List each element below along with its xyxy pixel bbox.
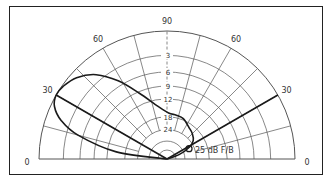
ring-label: 6 <box>166 69 171 77</box>
angle-label: 30 <box>42 86 52 95</box>
angle-label: 90 <box>162 17 172 26</box>
angle-label: 0 <box>304 158 309 167</box>
radial-grid-line <box>182 48 231 133</box>
radial-grid-line <box>134 35 160 130</box>
angle-label: 0 <box>24 158 29 167</box>
ring-label: 3 <box>166 52 170 60</box>
ring-label: 18 <box>164 114 173 122</box>
ring-label: 9 <box>166 83 170 91</box>
elevation-line <box>56 95 167 159</box>
ring-label: 12 <box>164 96 173 104</box>
angle-label: 60 <box>93 35 103 44</box>
radial-grid-line <box>43 126 138 152</box>
polar-pattern-plot: 030609060300 369121824 25 dB F/B <box>0 0 333 184</box>
ring-label: 24 <box>164 126 173 134</box>
fb-annotation: 25 dB F/B <box>195 146 234 155</box>
radial-grid-line <box>103 48 152 133</box>
angle-label: 60 <box>231 35 241 44</box>
angle-label: 30 <box>281 86 291 95</box>
